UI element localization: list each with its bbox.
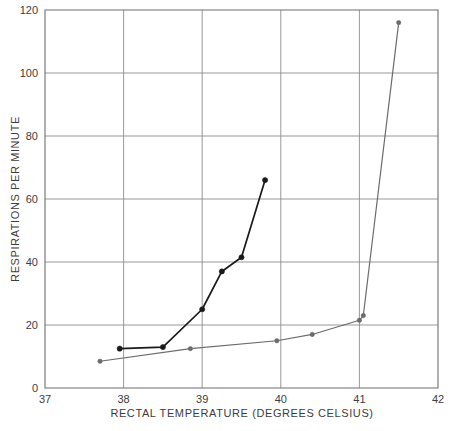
x-tick-label: 41 — [353, 393, 365, 405]
grid-lines — [45, 10, 438, 388]
y-tick-label: 0 — [32, 382, 38, 394]
data-series — [98, 20, 401, 363]
data-point-marker — [310, 332, 314, 336]
x-axis-title: RECTAL TEMPERATURE (DEGREES CELSIUS) — [110, 407, 373, 419]
x-axis-tick-labels: 373839404142 — [39, 393, 444, 405]
data-point-marker — [160, 344, 165, 349]
data-point-marker — [219, 269, 224, 274]
data-point-marker — [397, 20, 401, 24]
y-tick-label: 40 — [26, 256, 38, 268]
data-point-marker — [361, 313, 365, 317]
data-point-marker — [357, 318, 361, 322]
y-tick-label: 80 — [26, 130, 38, 142]
x-tick-label: 42 — [432, 393, 444, 405]
x-tick-label: 38 — [117, 393, 129, 405]
y-tick-label: 120 — [20, 4, 38, 16]
x-tick-label: 39 — [196, 393, 208, 405]
y-axis-title: RESPIRATIONS PER MINUTE — [9, 116, 21, 282]
y-tick-label: 60 — [26, 193, 38, 205]
chart-container: 020406080100120 373839404142 RECTAL TEMP… — [0, 0, 450, 431]
y-tick-label: 20 — [26, 319, 38, 331]
series-delayed-response — [98, 20, 401, 363]
data-point-marker — [117, 346, 122, 351]
data-point-marker — [188, 346, 192, 350]
data-point-marker — [275, 339, 279, 343]
y-axis-tick-labels: 020406080100120 — [20, 4, 38, 394]
data-point-marker — [98, 359, 102, 363]
data-point-marker — [239, 255, 244, 260]
x-tick-label: 37 — [39, 393, 51, 405]
data-point-marker — [262, 178, 267, 183]
data-point-marker — [200, 307, 205, 312]
respirations-vs-temperature-chart: 020406080100120 373839404142 RECTAL TEMP… — [0, 0, 450, 431]
y-tick-label: 100 — [20, 67, 38, 79]
series-line — [120, 180, 265, 349]
x-tick-label: 40 — [275, 393, 287, 405]
